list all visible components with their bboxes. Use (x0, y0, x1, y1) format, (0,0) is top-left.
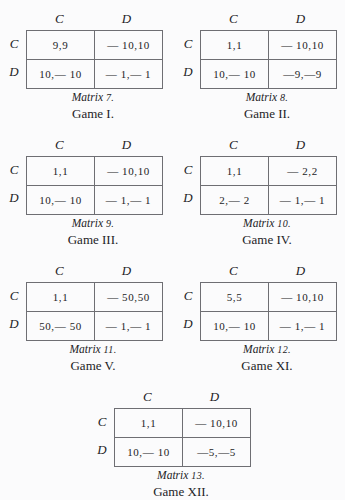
payoff-cell-cc: 1,1 (27, 283, 95, 312)
payoff-cell-dc: 10,— 10 (27, 186, 95, 215)
caption-matrix-label: Matrix 8. (200, 89, 334, 106)
matrix-row-4: C D C D 1,1 — 10,10 10,— 10 —5,—5 (0, 386, 345, 500)
table-row: 1,1 — 50,50 (27, 283, 163, 312)
column-header-d: D (93, 260, 160, 282)
caption-game-label: Game V. (26, 358, 160, 374)
column-header-d: D (267, 134, 334, 156)
table-row: 50,— 50 — 1,— 1 (27, 312, 163, 341)
matrix-block-11: C D C D 1,1 — 50,50 50,— 50 — 1,— 1 (6, 260, 163, 374)
caption-word-matrix: Matrix (243, 343, 274, 355)
caption-word-matrix: Matrix (157, 469, 188, 481)
column-header-c: C (200, 260, 267, 282)
row-header-c: C (180, 282, 200, 310)
payoff-cell-cc: 1,1 (201, 31, 269, 60)
payoff-cell-cc: 1,1 (201, 157, 269, 186)
row-header-column: C D (180, 156, 200, 215)
payoff-cell-dd: — 1,— 1 (95, 312, 163, 341)
row-header-column: C D (6, 30, 26, 89)
row-header-c: C (180, 30, 200, 58)
payoff-cell-dc: 50,— 50 (27, 312, 95, 341)
payoff-cell-cc: 1,1 (27, 157, 95, 186)
column-header-c: C (114, 386, 181, 408)
table-row: 10,— 10 —5,—5 (115, 438, 251, 467)
payoff-cell-cd: — 10,10 (183, 409, 251, 438)
row-header-column: C D (180, 30, 200, 89)
row-header-c: C (6, 282, 26, 310)
payoff-table-area: C D 1,1 — 2,2 2,— 2 — 1,— 1 (180, 156, 337, 215)
payoff-cell-dd: — 1,— 1 (269, 186, 337, 215)
matrix-caption-11: Matrix 11. Game V. (26, 341, 160, 374)
matrix-block-9: C D C D 1,1 — 10,10 10,— 10 — 1,— 1 (6, 134, 163, 248)
row-header-c: C (6, 30, 26, 58)
column-header-row: C D (26, 8, 163, 30)
matrix-caption-13: Matrix 13. Game XII. (114, 467, 248, 500)
caption-word-matrix: Matrix (72, 217, 103, 229)
payoff-cell-cc: 1,1 (115, 409, 183, 438)
caption-word-matrix: Matrix (72, 91, 103, 103)
column-header-row: C D (114, 386, 251, 408)
table-row: 1,1 — 10,10 (27, 157, 163, 186)
matrix-row-1: C D C D 9,9 — 10,10 10,— 10 — 1,— 1 (0, 8, 345, 122)
table-row: 5,5 — 10,10 (201, 283, 337, 312)
payoff-cell-dc: 10,— 10 (201, 312, 269, 341)
row-header-d: D (6, 310, 26, 338)
caption-matrix-label: Matrix 12. (200, 341, 334, 358)
payoff-cell-dc: 10,— 10 (27, 60, 95, 89)
caption-matrix-number: 7. (106, 92, 114, 103)
caption-game-label: Game II. (200, 106, 334, 122)
matrix-caption-10: Matrix 10. Game IV. (200, 215, 334, 248)
payoff-cell-cd: — 2,2 (269, 157, 337, 186)
caption-matrix-number: 12. (277, 344, 291, 355)
matrix-block-12: C D C D 5,5 — 10,10 10,— 10 — 1,— 1 (180, 260, 337, 374)
row-header-column: C D (6, 282, 26, 341)
payoff-cell-dc: 2,— 2 (201, 186, 269, 215)
caption-matrix-label: Matrix 9. (26, 215, 160, 232)
row-header-d: D (6, 184, 26, 212)
column-header-c: C (26, 8, 93, 30)
caption-game-label: Game I. (26, 106, 160, 122)
caption-matrix-number: 10. (277, 218, 291, 229)
row-header-c: C (180, 156, 200, 184)
payoff-matrix-11: 1,1 — 50,50 50,— 50 — 1,— 1 (26, 282, 163, 341)
caption-word-matrix: Matrix (69, 343, 100, 355)
caption-word-matrix: Matrix (243, 217, 274, 229)
matrix-caption-9: Matrix 9. Game III. (26, 215, 160, 248)
column-header-c: C (200, 134, 267, 156)
row-header-c: C (94, 408, 114, 436)
row-header-d: D (180, 58, 200, 86)
row-header-column: C D (180, 282, 200, 341)
caption-matrix-number: 13. (191, 470, 205, 481)
column-header-c: C (200, 8, 267, 30)
table-row: 2,— 2 — 1,— 1 (201, 186, 337, 215)
column-header-c: C (26, 134, 93, 156)
matrix-row-3: C D C D 1,1 — 50,50 50,— 50 — 1,— 1 (0, 260, 345, 374)
caption-game-label: Game XII. (114, 484, 248, 500)
caption-matrix-number: 8. (280, 92, 288, 103)
caption-word-matrix: Matrix (246, 91, 277, 103)
column-header-row: C D (26, 260, 163, 282)
payoff-cell-dd: —5,—5 (183, 438, 251, 467)
payoff-table-area: C D 1,1 — 50,50 50,— 50 — 1,— 1 (6, 282, 163, 341)
caption-matrix-label: Matrix 13. (114, 467, 248, 484)
matrix-caption-8: Matrix 8. Game II. (200, 89, 334, 122)
matrix-row-2: C D C D 1,1 — 10,10 10,— 10 — 1,— 1 (0, 134, 345, 248)
caption-game-label: Game XI. (200, 358, 334, 374)
caption-matrix-label: Matrix 11. (26, 341, 160, 358)
payoff-cell-cc: 9,9 (27, 31, 95, 60)
table-row: 10,— 10 — 1,— 1 (27, 186, 163, 215)
payoff-matrix-7: 9,9 — 10,10 10,— 10 — 1,— 1 (26, 30, 163, 89)
payoff-table-area: C D 1,1 — 10,10 10,— 10 —9,—9 (180, 30, 337, 89)
caption-matrix-label: Matrix 7. (26, 89, 160, 106)
payoff-cell-cd: — 10,10 (95, 157, 163, 186)
column-header-d: D (267, 8, 334, 30)
payoff-cell-cd: — 50,50 (95, 283, 163, 312)
payoff-matrix-13: 1,1 — 10,10 10,— 10 —5,—5 (114, 408, 251, 467)
table-row: 10,— 10 —9,—9 (201, 60, 337, 89)
payoff-matrix-10: 1,1 — 2,2 2,— 2 — 1,— 1 (200, 156, 337, 215)
payoff-cell-dd: — 1,— 1 (269, 312, 337, 341)
row-header-d: D (6, 58, 26, 86)
column-header-d: D (93, 8, 160, 30)
column-header-c: C (26, 260, 93, 282)
column-header-row: C D (26, 134, 163, 156)
matrix-block-8: C D C D 1,1 — 10,10 10,— 10 —9,—9 (180, 8, 337, 122)
